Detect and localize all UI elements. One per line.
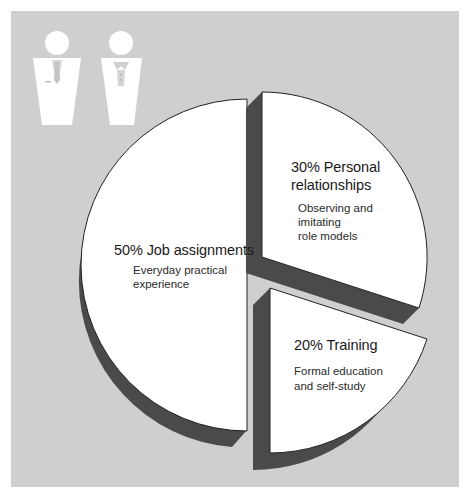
slice-label-training-line-2: and self-study	[294, 379, 366, 393]
slice-label-job-line-1: Everyday practical	[133, 263, 227, 277]
slice-label-personal-line-2: imitating	[298, 215, 341, 229]
man-figure-icon	[33, 31, 81, 125]
slice-label-training-heading: 20% Training	[294, 336, 377, 354]
slice-label-job-heading: 50% Job assignments	[114, 241, 254, 259]
slice-label-personal-heading-2: relationships	[291, 176, 371, 194]
slice-label-personal-line-3: role models	[298, 229, 357, 243]
slice-label-training-line-1: Formal education	[294, 364, 383, 378]
slice-label-job-line-2: experience	[133, 277, 189, 291]
slice-label-personal-line-1: Observing and	[298, 201, 373, 215]
woman-figure-icon	[101, 31, 142, 125]
slice-label-personal-heading-1: 30% Personal	[291, 158, 380, 176]
